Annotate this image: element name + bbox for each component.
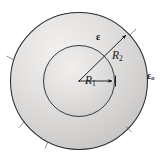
figure-container: ε εo R1 R2 [0,0,168,159]
diagram-canvas [0,0,168,159]
center-point [78,80,80,82]
